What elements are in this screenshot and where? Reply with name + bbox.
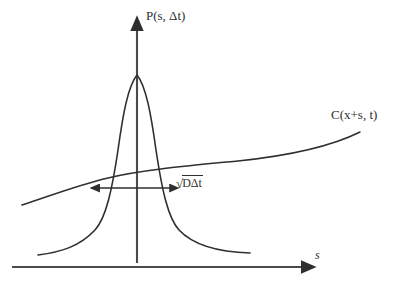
diffusion-figure: P(s, Δt) C(x+s, t) s √DΔt bbox=[0, 0, 398, 298]
x-axis-label: s bbox=[315, 249, 320, 261]
diffusion-width-label: √DΔt bbox=[176, 177, 203, 190]
figure-canvas bbox=[0, 0, 398, 298]
radical-group: √DΔt bbox=[176, 177, 203, 190]
y-axis-label: P(s, Δt) bbox=[146, 9, 185, 22]
concentration-curve-label: C(x+s, t) bbox=[331, 108, 377, 121]
radicand-text: DΔt bbox=[182, 175, 203, 190]
concentration-curve bbox=[22, 132, 360, 205]
gaussian-probability-curve bbox=[38, 75, 250, 255]
